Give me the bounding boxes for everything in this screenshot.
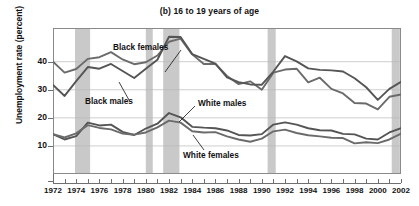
x-tick-mark	[146, 179, 147, 183]
x-tick-mark	[262, 179, 263, 183]
x-tick-mark	[181, 179, 182, 183]
recession-band	[392, 28, 400, 174]
series-line-black-males	[53, 37, 401, 100]
y-tick-label: 30	[27, 84, 47, 94]
chart-figure: (b) 16 to 19 years of age Unemployment r…	[0, 0, 419, 206]
x-tick-mark	[285, 179, 286, 183]
x-tick-mark	[215, 179, 216, 183]
y-tick-label: 20	[27, 112, 47, 122]
x-tick-mark	[331, 179, 332, 183]
x-tick-mark	[204, 179, 205, 183]
x-tick-mark	[378, 179, 379, 183]
y-axis-extension	[53, 174, 54, 183]
x-axis-line	[53, 183, 401, 184]
x-tick-mark	[320, 179, 321, 183]
series-label-black-females: Black females	[113, 42, 168, 52]
y-tick-label: 40	[27, 56, 47, 66]
x-tick-mark	[169, 179, 170, 183]
x-tick-mark	[157, 179, 158, 183]
x-tick-mark	[134, 179, 135, 183]
x-tick-mark	[355, 179, 356, 183]
chart-title: (b) 16 to 19 years of age	[0, 6, 419, 16]
annotation-leader-line	[193, 135, 204, 150]
x-tick-mark	[88, 179, 89, 183]
series-label-black-males: Black males	[85, 96, 133, 106]
x-tick-mark	[192, 179, 193, 183]
x-tick-mark	[239, 179, 240, 183]
x-tick-mark	[111, 179, 112, 183]
y-axis-label: Unemployment rate (percent)	[14, 0, 24, 140]
x-tick-mark	[273, 179, 274, 183]
x-tick-mark	[250, 179, 251, 183]
x-tick-mark	[343, 179, 344, 183]
x-tick-mark	[65, 179, 66, 183]
series-label-white-females: White females	[183, 150, 239, 160]
x-tick-mark	[76, 179, 77, 183]
x-tick-mark	[308, 179, 309, 183]
x-tick-label: 2002	[387, 186, 415, 195]
x-tick-mark	[297, 179, 298, 183]
x-tick-mark	[227, 179, 228, 183]
x-tick-mark	[389, 179, 390, 183]
x-tick-mark	[366, 179, 367, 183]
y-tick-label: 10	[27, 140, 47, 150]
x-tick-mark	[99, 179, 100, 183]
x-tick-mark	[401, 179, 402, 183]
annotation-leader-line	[179, 106, 195, 122]
x-tick-mark	[123, 179, 124, 183]
series-label-white-males: White males	[198, 98, 246, 108]
recession-band	[268, 28, 276, 174]
